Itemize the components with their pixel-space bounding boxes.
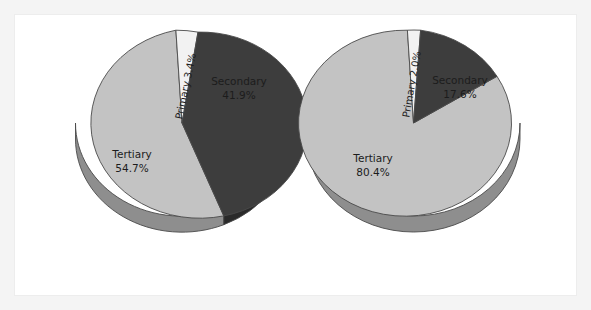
pie-1974-label-secondary-value: 41.9% [222,89,255,101]
pie-2006-label-tertiary-value: 80.4% [356,166,389,178]
figure-canvas: 1974 2006 Primary 3.4% [0,0,591,310]
pie-1974-label-tertiary-name: Tertiary [111,148,151,160]
chart-panel: 1974 2006 Primary 3.4% [14,14,577,296]
pie-charts-svg: Primary 3.4% Secondary 41.9% Tertiary 54… [15,15,578,297]
pie-chart-2006: Primary 2.0% Secondary 17.6% Tertiary 80… [299,30,520,232]
pie-1974-label-tertiary-value: 54.7% [115,162,148,174]
pie-chart-1974: Primary 3.4% Secondary 41.9% Tertiary 54… [75,30,307,232]
pie-2006-label-secondary-name: Secondary [432,74,488,86]
pie-1974-label-secondary-name: Secondary [211,75,267,87]
pie-2006-label-tertiary-name: Tertiary [352,152,392,164]
pie-2006-label-secondary-value: 17.6% [443,88,476,100]
